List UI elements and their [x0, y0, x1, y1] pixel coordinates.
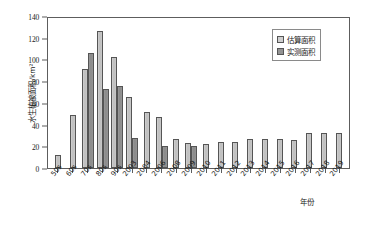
x-tick-slot: 2008	[169, 169, 184, 213]
legend-item-estimated: 估算面积	[277, 33, 315, 45]
y-tick-label: 120	[28, 34, 39, 43]
bar-group	[154, 18, 169, 168]
bar-group	[95, 18, 110, 168]
x-tick-slot: 2004	[139, 169, 154, 213]
bar-estimated	[70, 115, 76, 168]
bar-measured	[117, 86, 123, 169]
bar-group	[51, 18, 66, 168]
x-tick-slot: 2012	[228, 169, 243, 213]
bar-group	[140, 18, 155, 168]
x-tick-slot: 90s	[109, 169, 124, 213]
bar-group	[184, 18, 199, 168]
legend-item-measured: 实测面积	[277, 45, 315, 57]
x-tick-slot: 2018	[317, 169, 332, 213]
y-axis-ticks: 020406080100120140	[0, 17, 47, 169]
bar-group	[331, 18, 346, 168]
y-tick-label: 60	[32, 99, 39, 108]
bar-group	[228, 18, 243, 168]
x-tick-slot: 2010	[198, 169, 213, 213]
legend-swatch-estimated-icon	[277, 36, 284, 43]
x-tick-slot: 2015	[273, 169, 288, 213]
bar-group	[81, 18, 96, 168]
bar-group	[258, 18, 273, 168]
y-tick-label: 0	[35, 165, 39, 174]
bar-group	[125, 18, 140, 168]
x-tick-slot: 2011	[213, 169, 228, 213]
legend-label-estimated: 估算面积	[287, 34, 315, 45]
x-tick-slot: 2009	[184, 169, 199, 213]
x-tick-slot: 70s	[80, 169, 95, 213]
figure-container: 水生植被面积/km² 020406080100120140 50s60s70s8…	[0, 0, 368, 234]
bar-group	[213, 18, 228, 168]
bar-measured	[88, 53, 94, 168]
x-tick-slot: 2019	[332, 169, 347, 213]
y-tick-label: 80	[32, 78, 39, 87]
bar-group	[169, 18, 184, 168]
bar-group	[66, 18, 81, 168]
x-tick-slot: 80s	[95, 169, 110, 213]
x-tick-slot: 60s	[65, 169, 80, 213]
legend-swatch-measured-icon	[277, 48, 284, 55]
y-tick-label: 40	[32, 121, 39, 130]
legend-label-measured: 实测面积	[287, 46, 315, 57]
bar-group	[199, 18, 214, 168]
bar-group	[243, 18, 258, 168]
x-tick-slot: 2013	[243, 169, 258, 213]
y-tick-label: 100	[28, 56, 39, 65]
x-tick-slot: 2003	[124, 169, 139, 213]
chart-legend: 估算面积 实测面积	[272, 29, 321, 61]
x-axis-title: 年份	[300, 196, 314, 207]
x-tick-slot: 50s	[50, 169, 65, 213]
x-tick-slot: 2014	[258, 169, 273, 213]
bar-measured	[103, 89, 109, 168]
bar-group	[110, 18, 125, 168]
y-tick-label: 140	[28, 13, 39, 22]
x-tick-slot: 2006	[154, 169, 169, 213]
y-tick-label: 20	[32, 143, 39, 152]
